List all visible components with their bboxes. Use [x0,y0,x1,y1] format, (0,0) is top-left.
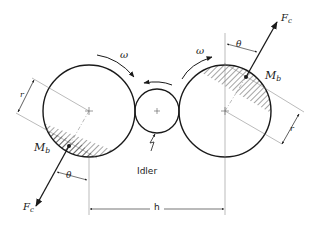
r-right-label: r [290,125,294,133]
idler-rotation-arrow [144,82,172,85]
idler [135,89,179,151]
roller-diagram [0,0,317,227]
fc-right-label: Fc [281,13,292,25]
omega-left-label: ω [120,50,128,60]
right-theta-dimension [227,44,257,52]
left-chord-line [16,113,97,158]
omega-right-label: ω [196,46,204,56]
left-roll [16,65,135,215]
idler-leader [150,134,155,151]
right-radius-line [225,111,282,144]
left-theta-dimension [57,172,87,180]
fc-left-label: Fc [23,202,34,214]
theta-right-label: θ [236,40,241,49]
right-hatched-segment [180,50,300,130]
r-left-label: r [20,91,24,99]
theta-left-label: θ [66,171,71,180]
idler-label: Idler [137,167,157,176]
h-label: h [154,203,160,212]
left-radius-line [32,78,89,111]
mb-right-label: Mb [265,70,281,83]
mb-left-label: Mb [34,142,50,155]
left-fc-arrow [36,146,69,206]
